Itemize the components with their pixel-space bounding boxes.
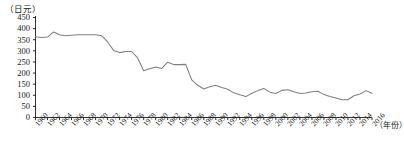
axes-group — [36, 16, 373, 118]
exchange-rate-line-chart: （日元） （年份） 050100150200250300350400450 19… — [0, 0, 404, 158]
data-series-line — [36, 32, 373, 100]
plot-area — [0, 0, 404, 158]
